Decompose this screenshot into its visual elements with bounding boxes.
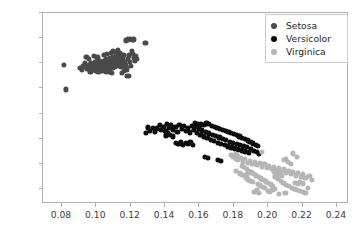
data-point: [163, 133, 168, 138]
legend: SetosaVersicolorVirginica: [265, 14, 348, 63]
data-point: [134, 57, 139, 62]
legend-item-versicolor: Versicolor: [266, 32, 347, 45]
x-tick-label: 0.24: [314, 209, 358, 220]
x-tick-mark: [130, 203, 131, 207]
data-point: [255, 144, 260, 149]
x-tick-mark: [336, 203, 337, 207]
legend-marker-icon: [271, 49, 277, 55]
data-point: [144, 130, 149, 135]
data-point: [218, 158, 223, 163]
data-point: [110, 70, 115, 75]
x-tick-mark: [95, 203, 96, 207]
data-point: [124, 67, 129, 72]
data-point: [123, 38, 128, 43]
data-point: [283, 190, 288, 195]
data-point: [61, 62, 66, 67]
data-point: [305, 185, 310, 190]
data-point: [131, 37, 136, 42]
data-point: [300, 181, 305, 186]
x-tick-mark: [267, 203, 268, 207]
x-tick-mark: [302, 203, 303, 207]
x-tick-mark: [164, 203, 165, 207]
legend-label: Setosa: [286, 20, 317, 31]
legend-marker-icon: [271, 36, 277, 42]
data-point: [259, 150, 264, 155]
data-point: [205, 156, 210, 161]
legend-item-virginica: Virginica: [266, 45, 347, 58]
data-point: [294, 154, 299, 159]
x-tick-mark: [61, 203, 62, 207]
data-point: [276, 191, 281, 196]
data-point: [257, 190, 262, 195]
data-point: [288, 161, 293, 166]
data-point: [170, 134, 175, 139]
data-point: [63, 87, 68, 92]
data-point: [143, 41, 148, 46]
legend-label: Versicolor: [286, 33, 331, 44]
scatter-figure: 0.100.080.060.040.020.00−0.02−0.04 0.080…: [0, 0, 360, 238]
x-tick-mark: [198, 203, 199, 207]
data-point: [303, 190, 308, 195]
legend-label: Virginica: [286, 46, 326, 57]
x-tick-mark: [233, 203, 234, 207]
data-point: [127, 73, 132, 78]
data-point: [309, 178, 314, 183]
legend-marker-icon: [271, 23, 277, 29]
data-point: [279, 173, 284, 178]
legend-item-setosa: Setosa: [266, 19, 347, 32]
data-point: [190, 142, 195, 147]
